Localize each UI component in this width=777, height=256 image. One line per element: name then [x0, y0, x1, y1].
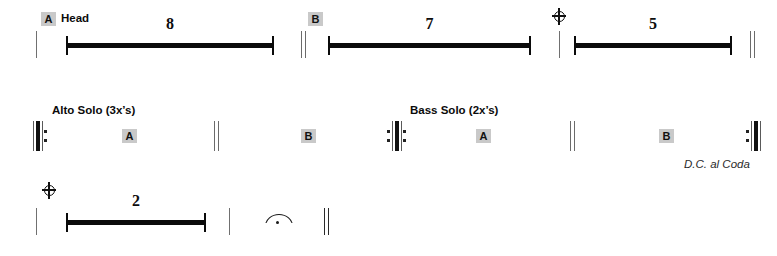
- multirest-8-beam: [66, 43, 274, 48]
- multirest-7-cap-right: [529, 36, 531, 55]
- final-double-barline: [750, 31, 755, 58]
- double-barline-alto-mid: [214, 121, 219, 151]
- multirest-8-count: 8: [66, 15, 274, 33]
- alto-solo-label: Alto Solo (3x’s): [52, 104, 135, 116]
- dc-al-coda-text: D.C. al Coda: [684, 158, 750, 170]
- multirest-2: 2: [66, 210, 206, 232]
- coda-section-ring: [44, 185, 55, 196]
- multirest-2-beam: [66, 220, 206, 225]
- repeat-start-barline: [33, 121, 49, 151]
- bass-solo-label: Bass Solo (2x’s): [410, 104, 498, 116]
- double-barline-before-b: [301, 31, 306, 58]
- multirest-7-beam: [328, 43, 531, 48]
- multirest-2-cap-right: [204, 213, 206, 232]
- multirest-8: 8: [66, 33, 274, 55]
- multirest-7-count: 7: [328, 15, 531, 33]
- multirest-5-count: 5: [574, 15, 732, 33]
- barline-at-coda: [559, 31, 560, 58]
- barline-open-system-3: [36, 208, 37, 235]
- rehearsal-mark-b-alto[interactable]: B: [301, 129, 316, 143]
- repeat-both-barline: [386, 121, 408, 151]
- coda-ring: [554, 11, 565, 22]
- barline-open-system-1: [36, 31, 37, 58]
- rehearsal-mark-b[interactable]: B: [308, 12, 323, 26]
- multirest-8-cap-right: [272, 36, 274, 55]
- final-double-barline-end: [324, 208, 329, 235]
- coda-symbol: [552, 8, 567, 25]
- rehearsal-mark-a-bass[interactable]: A: [476, 129, 491, 143]
- barline-before-fermata: [229, 208, 230, 235]
- fermata-arc: [265, 214, 293, 238]
- rehearsal-mark-a[interactable]: A: [41, 12, 56, 26]
- multirest-7: 7: [328, 33, 531, 55]
- fermata-dot: [276, 221, 279, 224]
- multirest-5-cap-right: [730, 36, 732, 55]
- repeat-start-dots: [43, 121, 49, 151]
- rehearsal-mark-a-alto[interactable]: A: [122, 129, 137, 143]
- repeat-end-barline: [745, 121, 761, 151]
- multirest-2-count: 2: [66, 192, 206, 210]
- coda-symbol-section: [42, 182, 57, 199]
- lead-sheet-road-map: A Head 8 B 7 5 Alto Solo (: [0, 0, 777, 256]
- repeat-both-dots-right: [402, 121, 408, 151]
- rehearsal-mark-b-bass[interactable]: B: [659, 129, 674, 143]
- fermata-symbol: [265, 214, 291, 228]
- multirest-5-beam: [574, 43, 732, 48]
- repeat-end-thin-outer: [760, 121, 761, 151]
- repeat-end-dots: [745, 121, 751, 151]
- double-barline-bass-mid: [570, 121, 575, 151]
- multirest-5: 5: [574, 33, 732, 55]
- repeat-both-dots-left: [386, 121, 392, 151]
